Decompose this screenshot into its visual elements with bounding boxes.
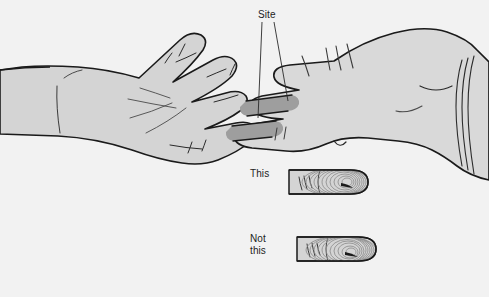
left-hand-illustration [0, 33, 257, 164]
site-leader-line-2 [274, 22, 288, 101]
illustration-canvas [0, 0, 489, 297]
glove-thumb-bump [334, 141, 346, 145]
inset-this-correct [289, 168, 372, 196]
not-this-line-1: Not [250, 233, 266, 244]
site-label: Site [258, 9, 276, 21]
right-gloved-hand-illustration [226, 29, 489, 180]
medical-illustration-figure: apposed fingertip placement [0, 0, 489, 297]
inset-this-label: This [250, 168, 269, 180]
not-this-line-2: this [250, 245, 266, 256]
inset-not-this-label: Notthis [250, 233, 266, 256]
inset-not-this-incorrect [297, 236, 376, 264]
